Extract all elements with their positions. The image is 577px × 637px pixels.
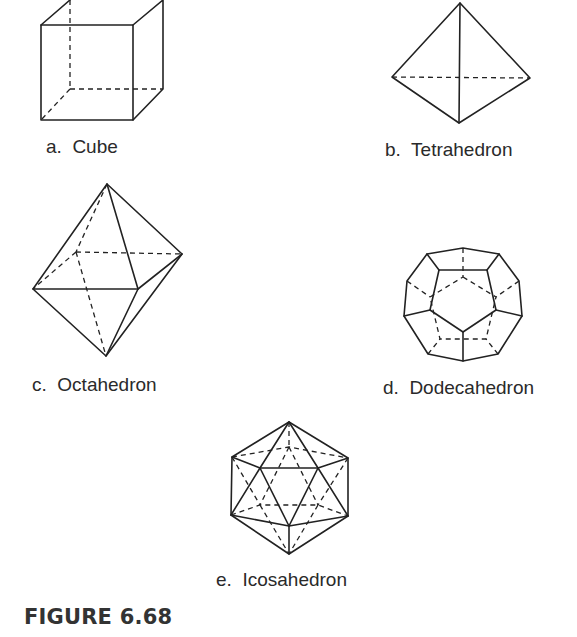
- dodecahedron-label: d. Dodecahedron: [383, 377, 534, 399]
- icosahedron-label: e. Icosahedron: [216, 569, 347, 591]
- cube-label: a. Cube: [46, 136, 118, 158]
- octahedron-drawing: [33, 184, 182, 356]
- icosahedron-drawing: [231, 422, 348, 554]
- tetrahedron-label: b. Tetrahedron: [385, 139, 512, 161]
- dodecahedron-drawing: [404, 248, 522, 361]
- cube-drawing: [41, 0, 163, 120]
- octahedron-label: c. Octahedron: [32, 374, 157, 396]
- polyhedra-figure: [0, 0, 577, 637]
- tetrahedron-drawing: [392, 3, 530, 123]
- figure-caption: FIGURE 6.68: [24, 605, 172, 629]
